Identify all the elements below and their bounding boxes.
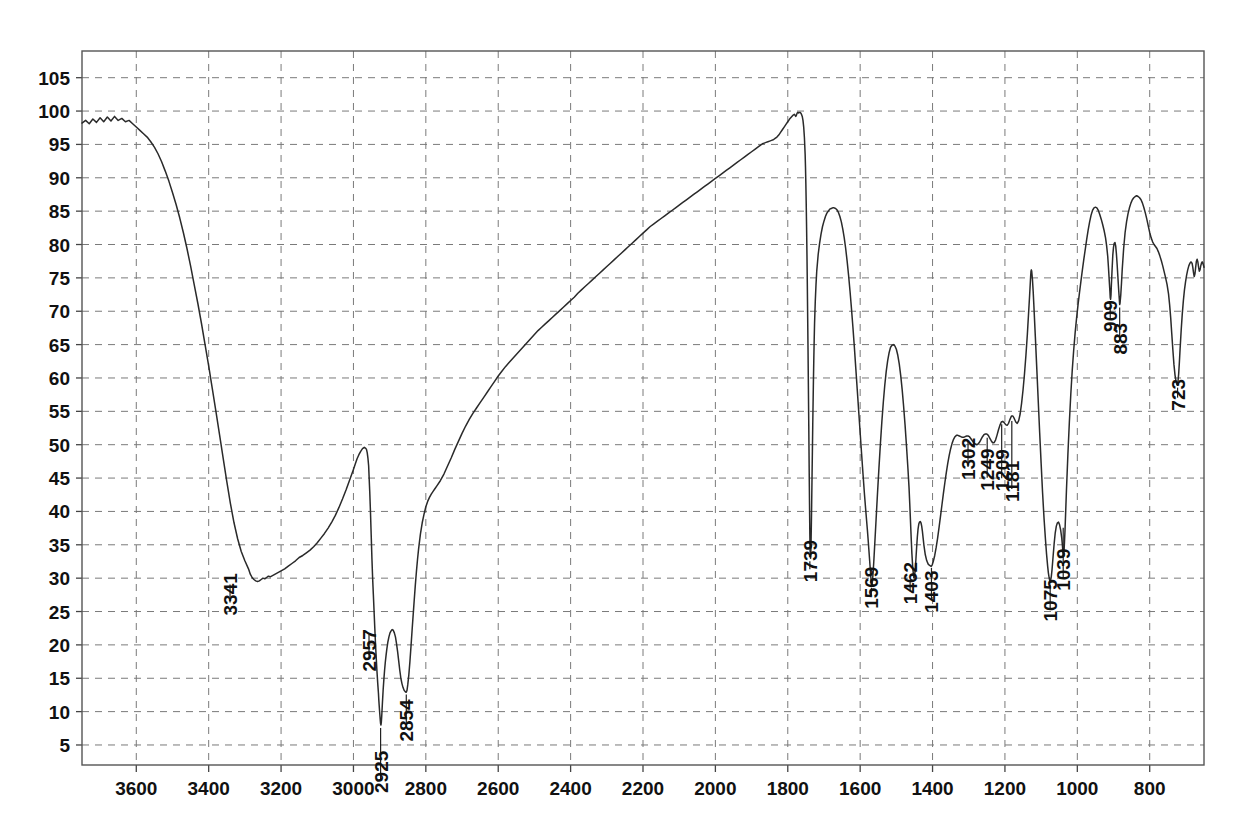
ir-spectrum-chart: 3341295729252854173915691462140313021249… — [0, 0, 1248, 834]
y-axis-tick-label: 5 — [59, 735, 70, 756]
y-axis-tick-label: 55 — [49, 401, 71, 422]
tick-layer — [76, 78, 1150, 772]
y-axis-tick-label: 35 — [49, 535, 71, 556]
y-axis-tick-label: 15 — [49, 668, 71, 689]
peak-label: 883 — [1110, 323, 1131, 355]
y-axis-tick-label: 60 — [49, 368, 70, 389]
y-axis-tick-label: 105 — [38, 68, 70, 89]
peak-label: 723 — [1168, 379, 1189, 411]
peak-label: 1403 — [921, 571, 942, 613]
x-axis-tick-label: 3600 — [115, 778, 157, 799]
x-axis-tick-label: 1400 — [911, 778, 953, 799]
y-axis-tick-label: 45 — [49, 468, 71, 489]
peak-label: 1739 — [800, 540, 821, 582]
y-axis-tick-label: 25 — [49, 602, 71, 623]
peak-label: 1181 — [1002, 460, 1023, 502]
y-axis-tick-label: 80 — [49, 235, 70, 256]
x-axis-tick-label: 3000 — [332, 778, 374, 799]
x-axis-tick-label: 800 — [1134, 778, 1166, 799]
peak-label: 1462 — [900, 562, 921, 604]
y-axis-tick-label: 40 — [49, 501, 70, 522]
peak-label: 1302 — [958, 438, 979, 480]
peak-label: 1569 — [861, 567, 882, 609]
peak-label-layer: 3341295729252854173915691462140313021249… — [220, 300, 1189, 793]
y-axis-tick-label: 20 — [49, 635, 70, 656]
y-axis-tick-label: 10 — [49, 702, 70, 723]
x-axis-tick-label: 2400 — [549, 778, 591, 799]
y-axis-tick-label: 90 — [49, 168, 70, 189]
grid-layer — [82, 51, 1204, 765]
y-axis-tick-label: 95 — [49, 134, 71, 155]
x-axis-tick-label: 1600 — [839, 778, 881, 799]
y-axis-tick-label: 50 — [49, 435, 70, 456]
x-axis-tick-label: 2600 — [477, 778, 519, 799]
x-axis-tick-label: 3200 — [260, 778, 302, 799]
x-axis-tick-label: 1800 — [767, 778, 809, 799]
x-axis-tick-label: 2000 — [694, 778, 736, 799]
x-axis-tick-label: 3400 — [188, 778, 230, 799]
y-axis-tick-label: 65 — [49, 335, 71, 356]
peak-label: 1039 — [1053, 549, 1074, 591]
y-axis-tick-label: 30 — [49, 568, 70, 589]
y-axis-tick-label: 70 — [49, 301, 70, 322]
spectrum-plot: 3341295729252854173915691462140313021249… — [0, 0, 1248, 834]
peak-label: 2854 — [396, 699, 417, 742]
y-axis-tick-label: 85 — [49, 201, 71, 222]
x-axis-tick-label: 1000 — [1056, 778, 1098, 799]
y-axis-tick-label: 75 — [49, 268, 71, 289]
x-axis-tick-label: 2800 — [405, 778, 447, 799]
x-axis-tick-label: 1200 — [984, 778, 1026, 799]
y-axis-tick-label: 100 — [38, 101, 70, 122]
x-axis-tick-label: 2200 — [622, 778, 664, 799]
peak-label: 2957 — [359, 629, 380, 671]
peak-label: 3341 — [220, 573, 241, 616]
